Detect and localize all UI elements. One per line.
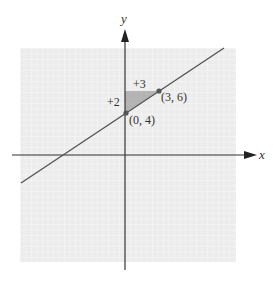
y-axis-arrow-icon bbox=[121, 29, 129, 42]
x-axis-label: x bbox=[258, 147, 265, 162]
point-0-4 bbox=[123, 110, 128, 115]
rise-label: +2 bbox=[107, 95, 120, 109]
point-label-0-4: (0, 4) bbox=[129, 113, 155, 127]
graph: y x +3 +2 (3, 6) (0, 4) bbox=[0, 0, 276, 283]
y-axis-label: y bbox=[119, 11, 127, 26]
run-label: +3 bbox=[133, 77, 146, 91]
point-label-3-6: (3, 6) bbox=[161, 90, 187, 104]
x-axis-arrow-icon bbox=[244, 151, 257, 159]
